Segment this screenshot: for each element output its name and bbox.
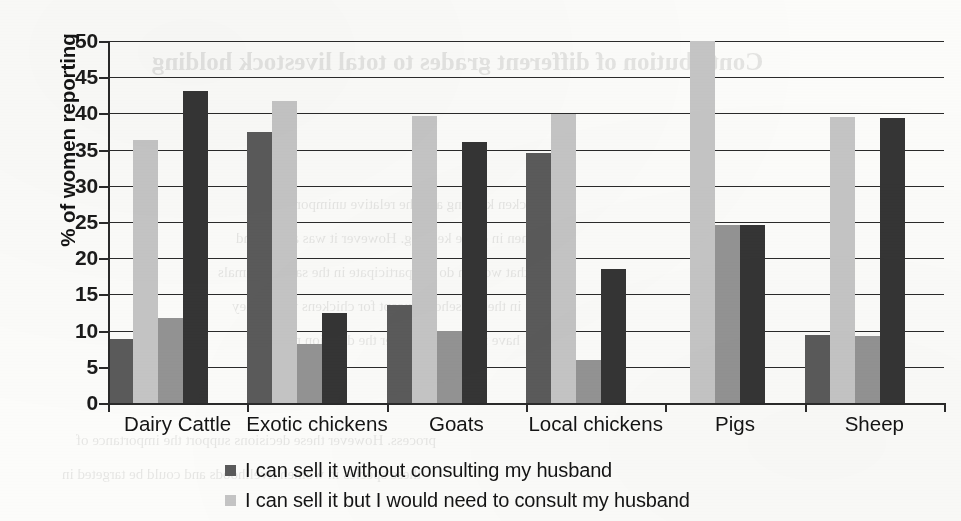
legend-label: I can sell it without consulting my husb… <box>245 459 612 482</box>
bar-group <box>665 41 804 403</box>
bar[interactable] <box>247 132 272 404</box>
bar[interactable] <box>183 91 208 403</box>
bar-slot <box>133 41 158 403</box>
y-axis-tick-mark <box>99 258 108 260</box>
legend-item[interactable]: I can sell it without consulting my husb… <box>225 455 690 485</box>
bar-slot <box>108 41 133 403</box>
bar[interactable] <box>740 225 765 403</box>
chart-legend: I can sell it without consulting my husb… <box>225 455 690 515</box>
bar-slot <box>665 41 690 403</box>
bar-slot <box>387 41 412 403</box>
bar-slot <box>297 41 322 403</box>
x-axis-tick-label-sheep: Sheep <box>845 412 904 436</box>
legend-item[interactable]: I can sell it but I would need to consul… <box>225 485 690 515</box>
y-axis-tick-mark <box>99 113 108 115</box>
y-axis-tick-mark <box>99 77 108 79</box>
bar-slot <box>740 41 765 403</box>
bar-slot <box>830 41 855 403</box>
bar-group <box>526 41 665 403</box>
bar-slot <box>880 41 905 403</box>
y-axis-tick-mark <box>99 294 108 296</box>
bar-slot <box>183 41 208 403</box>
bar[interactable] <box>387 305 412 403</box>
bar[interactable] <box>526 153 551 404</box>
y-axis-tick-mark <box>99 403 108 405</box>
bar-group <box>108 41 247 403</box>
y-axis-tick-mark <box>99 41 108 43</box>
bar[interactable] <box>690 41 715 403</box>
legend-label: I can sell it but I would need to consul… <box>245 489 690 512</box>
bar[interactable] <box>576 360 601 403</box>
y-axis-tick-mark <box>99 150 108 152</box>
legend-swatch-icon <box>225 495 236 506</box>
y-axis-tick-mark <box>99 222 108 224</box>
bar[interactable] <box>158 318 183 403</box>
y-axis-tick-mark <box>99 186 108 188</box>
x-axis-tick-label-goats: Goats <box>429 412 484 436</box>
x-axis-tick-label-dairy-cattle: Dairy Cattle <box>124 412 231 436</box>
bar-slot <box>551 41 576 403</box>
bar[interactable] <box>297 344 322 403</box>
bar[interactable] <box>830 117 855 403</box>
bar[interactable] <box>272 101 297 403</box>
bar[interactable] <box>880 118 905 403</box>
y-axis-line <box>108 41 110 405</box>
bar-slot <box>437 41 462 403</box>
bar[interactable] <box>855 336 880 403</box>
bar-slot <box>855 41 880 403</box>
bar-slot <box>412 41 437 403</box>
bar-group <box>387 41 526 403</box>
x-axis-tick-label-local-chickens: Local chickens <box>528 412 662 436</box>
bar-slot <box>322 41 347 403</box>
y-axis-tick-mark <box>99 367 108 369</box>
bar-group <box>247 41 386 403</box>
bar-slot <box>576 41 601 403</box>
bar-slot <box>247 41 272 403</box>
bar[interactable] <box>551 114 576 403</box>
bar[interactable] <box>412 116 437 403</box>
bar-slot <box>805 41 830 403</box>
bar[interactable] <box>133 140 158 403</box>
x-axis-tick-mark <box>526 403 528 412</box>
bar-slot <box>715 41 740 403</box>
y-axis-title: % of women reporting <box>56 0 80 290</box>
x-axis-tick-mark <box>387 403 389 412</box>
x-axis-tick-mark <box>108 403 110 412</box>
y-axis-tick-mark <box>99 331 108 333</box>
bar[interactable] <box>805 335 830 403</box>
bar[interactable] <box>601 269 626 403</box>
bar-slot <box>526 41 551 403</box>
x-axis-tick-mark <box>944 403 946 412</box>
bar-chart: % of women reporting 0510152025303540455… <box>0 0 961 521</box>
bar[interactable] <box>437 331 462 403</box>
plot-area <box>108 41 944 403</box>
bar[interactable] <box>108 339 133 403</box>
bar-slot <box>272 41 297 403</box>
bar-slot <box>462 41 487 403</box>
y-axis-tick-label: 10 <box>58 319 98 343</box>
bar-slot <box>158 41 183 403</box>
y-axis-tick-label: 5 <box>58 355 98 379</box>
bars-layer <box>108 41 944 403</box>
bar-slot <box>601 41 626 403</box>
bar[interactable] <box>715 225 740 403</box>
legend-swatch-icon <box>225 465 236 476</box>
x-axis-tick-mark <box>805 403 807 412</box>
y-axis-tick-label: 0 <box>58 391 98 415</box>
bar-slot <box>690 41 715 403</box>
x-axis-tick-label-exotic-chickens: Exotic chickens <box>246 412 387 436</box>
bar[interactable] <box>462 142 487 403</box>
x-axis-tick-label-pigs: Pigs <box>715 412 755 436</box>
bar[interactable] <box>322 313 347 403</box>
bar-group <box>805 41 944 403</box>
x-axis-tick-mark <box>247 403 249 412</box>
x-axis-tick-mark <box>665 403 667 412</box>
